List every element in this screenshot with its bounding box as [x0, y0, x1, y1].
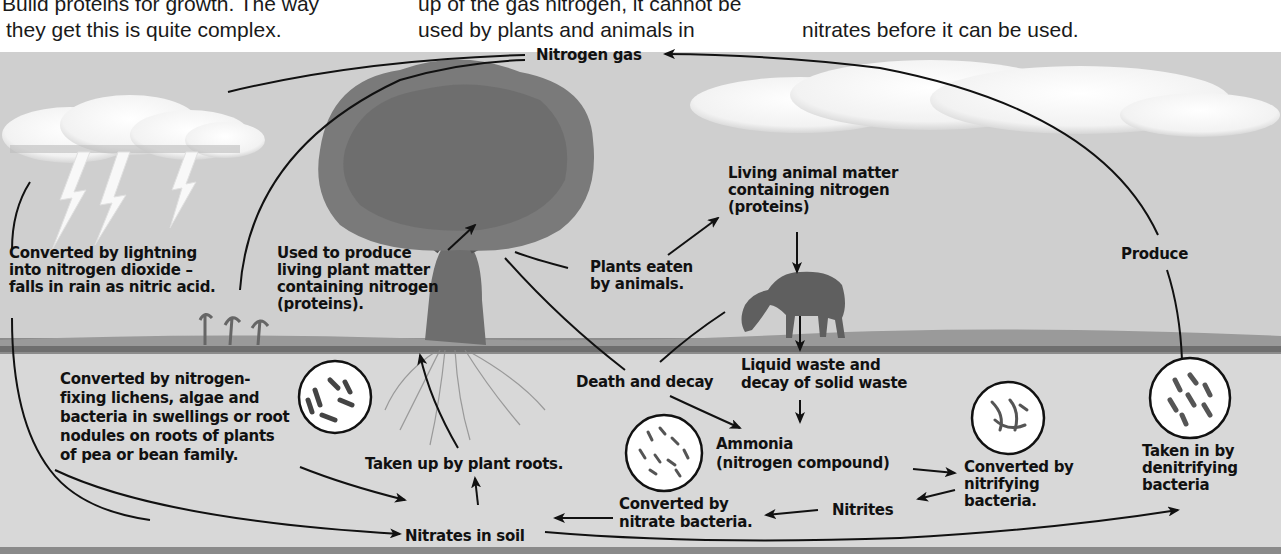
- label-nitrifying-line2: nitrifying: [964, 476, 1039, 493]
- label-plants-eaten-line2: by animals.: [590, 276, 684, 293]
- label-plant-matter-line3: containing nitrogen: [277, 279, 438, 296]
- label-ammonia-line1: Ammonia: [716, 436, 793, 453]
- label-plant-matter-line1: Used to produce: [277, 245, 411, 262]
- label-lightning-line3: falls in rain as nitric acid.: [9, 279, 216, 296]
- label-nitrogen-gas: Nitrogen gas: [536, 47, 642, 64]
- horse-icon: [742, 272, 846, 338]
- storm-cloud-icon: [2, 95, 265, 163]
- bacteria-circle-fixing-icon: [299, 361, 371, 433]
- label-nitrate-bacteria-line1: Converted by: [619, 496, 729, 513]
- label-plant-matter-line2: living plant matter: [277, 262, 430, 279]
- bacteria-circle-denitrifying-icon: [1150, 358, 1230, 438]
- label-produce: Produce: [1121, 246, 1188, 263]
- label-lightning-line1: Converted by lightning: [9, 245, 197, 262]
- label-nitrifying-line3: bacteria.: [964, 493, 1037, 510]
- label-fixing-line2: fixing lichens, algae and: [60, 390, 259, 407]
- bacteria-circle-ammonia-icon: [626, 415, 702, 491]
- label-lightning-line2: into nitrogen dioxide –: [9, 262, 193, 279]
- label-waste-line2: decay of solid waste: [741, 375, 907, 392]
- label-denitrifying-line1: Taken in by: [1142, 443, 1234, 460]
- label-death-decay: Death and decay: [576, 374, 713, 391]
- lightning-icon: [52, 152, 198, 250]
- label-fixing-line1: Converted by nitrogen-: [60, 371, 250, 388]
- label-taken-up-roots: Taken up by plant roots.: [365, 456, 563, 473]
- label-denitrifying-line2: denitrifying: [1142, 460, 1238, 477]
- label-nitrates-in-soil: Nitrates in soil: [405, 528, 525, 545]
- label-plant-matter-line4: (proteins).: [277, 296, 364, 313]
- label-animal-matter-line3: (proteins): [728, 199, 809, 216]
- label-animal-matter-line1: Living animal matter: [728, 165, 898, 182]
- label-nitrifying-line1: Converted by: [964, 459, 1074, 476]
- grass-strip-icon: [0, 329, 1281, 354]
- cloud-icon: [690, 60, 1280, 137]
- label-fixing-line3: bacteria in swellings or root: [60, 409, 289, 426]
- label-plants-eaten-line1: Plants eaten: [590, 259, 693, 276]
- label-ammonia-line2: (nitrogen compound): [716, 455, 889, 472]
- bacteria-circle-nitrifying-icon: [972, 382, 1044, 454]
- label-denitrifying-line3: bacteria: [1142, 477, 1209, 494]
- label-fixing-line4: nodules on roots of plants: [60, 428, 274, 445]
- label-nitrites: Nitrites: [832, 502, 893, 519]
- label-nitrate-bacteria-line2: nitrate bacteria.: [619, 514, 752, 531]
- label-waste-line1: Liquid waste and: [741, 357, 880, 374]
- label-animal-matter-line2: containing nitrogen: [728, 182, 889, 199]
- label-fixing-line5: of pea or bean family.: [60, 447, 238, 464]
